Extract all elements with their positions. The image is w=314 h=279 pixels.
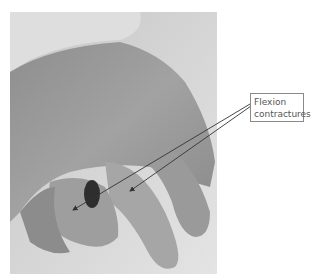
label-line-1: Flexion xyxy=(254,96,300,108)
arrow-1 xyxy=(73,104,250,210)
annotation-arrows xyxy=(0,0,314,279)
annotation-label: Flexion contractures xyxy=(250,93,304,122)
arrow-2 xyxy=(130,106,251,191)
label-line-2: contractures xyxy=(254,108,300,120)
